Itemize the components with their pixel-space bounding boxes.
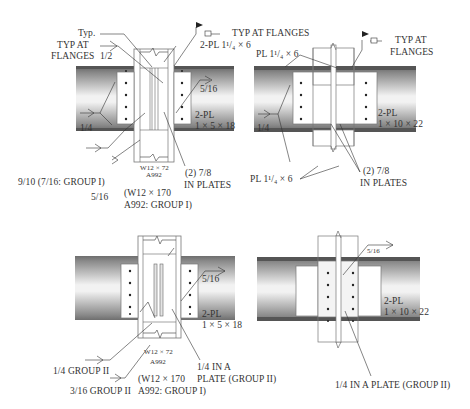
connection-detail-figure: Typ. TYP AT FLANGES 1/2 TYP AT FLANGES 2… xyxy=(0,0,470,409)
label-beam-2: A992: GROUP I) xyxy=(138,386,206,397)
label-weld-1-4-g2: 1/4 GROUP II xyxy=(53,366,109,377)
label-typ-at-flanges-1: TYP AT xyxy=(57,40,89,51)
label-plate-top: 2-PL 1¹/₄ × 6 xyxy=(200,40,251,51)
label-weld-group2-1: 1/4 IN A xyxy=(197,362,231,373)
label-weld-plate: 1/4 IN A PLATE (GROUP II) xyxy=(335,380,450,391)
label-weld-1-4: 1/4 xyxy=(80,123,92,134)
stiffener xyxy=(331,45,336,149)
label-typ-at-flanges-2: FLANGES xyxy=(51,51,94,62)
side-plate-right xyxy=(174,72,191,124)
label-column-2: A992 xyxy=(150,358,166,366)
label-side-plate-2: 1 × 5 × 18 xyxy=(202,320,242,331)
column xyxy=(138,236,181,338)
label-beam-1: (W12 × 170 xyxy=(124,188,171,199)
label-column-1: W12 × 72 xyxy=(144,348,173,356)
label-side-plate-1: 2-PL xyxy=(384,296,403,307)
label-pl-top: PL 1¹/₄ × 6 xyxy=(256,49,299,60)
label-side-plate-2: 1 × 10 × 22 xyxy=(378,119,423,130)
label-weld-group2-2: PLATE (GROUP II) xyxy=(197,374,276,385)
label-weld-3-16-g2: 3/16 GROUP II xyxy=(70,386,131,397)
label-beam-1: (W12 × 170 xyxy=(138,374,185,385)
label-weld-5-16-b: 5/16 xyxy=(91,192,108,203)
label-column-2: A992 xyxy=(146,171,162,179)
label-bolts-1: (2) 7/8 xyxy=(363,166,389,177)
label-typ-at-2: FLANGES xyxy=(390,47,433,58)
label-weld-half: 1/2 xyxy=(100,51,112,62)
label-side-plate-1: 2-PL xyxy=(202,309,221,320)
label-typ-at-flanges-right: TYP AT FLANGES xyxy=(232,28,309,39)
label-weld-5-16: 5/16 xyxy=(200,84,217,95)
label-bolts-2: IN PLATES xyxy=(360,178,407,189)
label-typ: Typ. xyxy=(78,28,95,39)
label-beam-2: A992: GROUP I) xyxy=(124,200,192,211)
label-weld-1-4: 1/4 xyxy=(257,123,269,134)
label-side-plate-1: 2-PL xyxy=(195,110,214,121)
label-bolts-1: (2) 7/8 xyxy=(185,168,211,179)
side-plate-right xyxy=(181,264,198,318)
label-typ-at-1: TYP AT xyxy=(395,35,427,46)
label-side-plate-1: 2-PL xyxy=(378,108,397,119)
label-pl-bottom: PL 1¹/₄ × 6 xyxy=(250,174,293,185)
label-side-plate-2: 1 × 5 × 18 xyxy=(195,121,235,132)
stiffener xyxy=(336,236,341,342)
label-bolts-2: IN PLATES xyxy=(184,180,231,191)
label-weld-5-16: 5/16 xyxy=(367,247,380,255)
label-weld-9-10: 9/10 (7/16: GROUP I) xyxy=(18,177,105,188)
label-side-plate-2: 1 × 10 × 22 xyxy=(384,307,429,318)
side-plate-left xyxy=(121,264,138,318)
label-weld-5-16: 5/16 xyxy=(202,274,219,285)
side-plate-left xyxy=(117,72,134,124)
